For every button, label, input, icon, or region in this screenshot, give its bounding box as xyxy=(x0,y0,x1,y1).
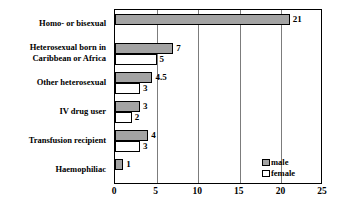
gridline xyxy=(240,10,241,183)
bar-chart: Homo- or bisexualHeterosexual born inCar… xyxy=(0,0,340,210)
bar-value-label: 3 xyxy=(143,141,148,152)
value-axis-ticks: 0510152025 xyxy=(0,186,340,202)
legend-item-male: male xyxy=(262,157,295,168)
category-label: Homo- or bisexual xyxy=(39,18,106,29)
bar-value-label: 21 xyxy=(293,14,302,25)
legend-label: male xyxy=(271,157,288,168)
bar-value-label: 3 xyxy=(143,83,148,94)
legend-label: female xyxy=(271,168,295,179)
category-label-line: Other heterosexual xyxy=(37,77,106,88)
category-label: Transfusion recipient xyxy=(29,135,106,146)
category-axis-labels: Homo- or bisexualHeterosexual born inCar… xyxy=(0,9,110,184)
bar-value-label: 4.5 xyxy=(155,72,166,83)
legend: malefemale xyxy=(262,157,295,179)
bar-female xyxy=(115,112,132,123)
category-label: Heterosexual born inCaribbean or Africa xyxy=(30,42,106,63)
bar-female xyxy=(115,83,140,94)
legend-swatch-male xyxy=(262,159,270,166)
category-label-line: Caribbean or Africa xyxy=(30,53,106,64)
category-label-line: IV drug user xyxy=(59,106,106,117)
x-tick-label: 10 xyxy=(192,186,202,196)
bar-male xyxy=(115,130,148,141)
category-label-line: Heterosexual born in xyxy=(30,42,106,53)
bar-value-label: 5 xyxy=(160,54,165,65)
bar-female xyxy=(115,54,157,65)
bar-value-label: 3 xyxy=(143,101,148,112)
category-label-line: Transfusion recipient xyxy=(29,135,106,146)
legend-item-female: female xyxy=(262,168,295,179)
category-label-line: Homo- or bisexual xyxy=(39,18,106,29)
x-tick-label: 15 xyxy=(234,186,244,196)
gridline xyxy=(198,10,199,183)
bar-value-label: 2 xyxy=(135,112,140,123)
category-label: Other heterosexual xyxy=(37,77,106,88)
bar-female xyxy=(115,141,140,152)
x-tick-label: 25 xyxy=(317,186,327,196)
category-label-line: Haemophiliac xyxy=(55,164,106,175)
bar-value-label: 4 xyxy=(151,130,156,141)
legend-swatch-female xyxy=(262,170,270,177)
x-tick-label: 5 xyxy=(153,186,158,196)
x-tick-label: 0 xyxy=(112,186,117,196)
bar-male xyxy=(115,159,123,170)
category-label: Haemophiliac xyxy=(55,164,106,175)
bar-male xyxy=(115,72,152,83)
x-tick-label: 20 xyxy=(276,186,286,196)
bar-male xyxy=(115,101,140,112)
bar-male xyxy=(115,14,290,25)
category-label: IV drug user xyxy=(59,106,106,117)
bar-value-label: 1 xyxy=(126,159,131,170)
bar-value-label: 7 xyxy=(176,43,181,54)
bar-male xyxy=(115,43,173,54)
gridline xyxy=(157,10,158,183)
